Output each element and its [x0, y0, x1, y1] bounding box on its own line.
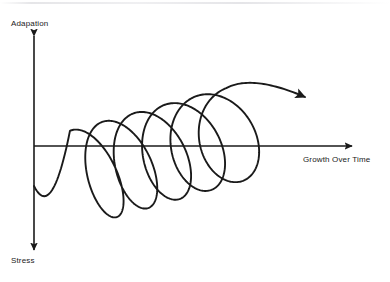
- rising-spiral-path: [34, 83, 305, 218]
- axis-label-growth-over-time: Growth Over Time: [303, 155, 370, 165]
- diagram-canvas: Adapation Stress Growth Over Time: [0, 0, 390, 282]
- axis-label-stress: Stress: [11, 256, 35, 266]
- axes-group: [34, 36, 352, 250]
- axis-label-adaptation: Adapation: [11, 19, 48, 29]
- spiral-diagram-svg: [0, 0, 390, 282]
- spiral-group: [34, 83, 305, 218]
